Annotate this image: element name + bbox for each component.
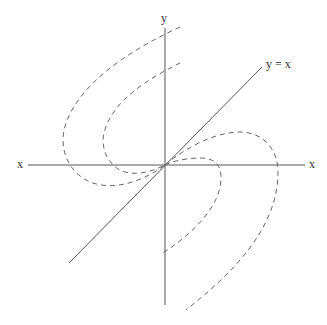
curve-inner-lower-right — [163, 158, 221, 253]
curve-inner-upper-left — [103, 63, 180, 173]
x-axis-label-right: x — [309, 158, 315, 170]
curve-outer-lower-right — [165, 132, 278, 310]
y-axis-label: y — [161, 12, 167, 24]
x-axis-label-left: x — [17, 158, 23, 170]
diagonal-label: y = x — [266, 58, 291, 70]
curve-outer-upper-left — [63, 27, 180, 186]
phase-portrait — [0, 0, 327, 325]
